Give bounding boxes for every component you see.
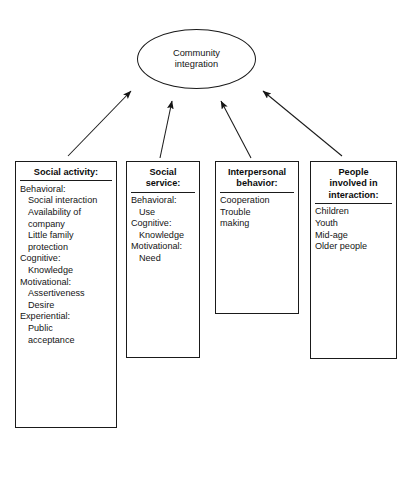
list-item: Public (20, 323, 112, 335)
list-item: Desire (20, 300, 112, 312)
list-item: protection (20, 242, 112, 254)
title-divider (315, 203, 392, 204)
box-title-line: Social (132, 167, 194, 178)
box-title-social-service: Social service: (131, 167, 195, 192)
list-item: Motivational: (131, 241, 195, 253)
central-node-line-2: integration (175, 59, 218, 70)
diagram-canvas: Community integration Social activity: B… (0, 0, 409, 501)
arrow-group (68, 91, 342, 158)
list-item: Use (131, 207, 195, 219)
list-item: Behavioral: (20, 184, 112, 196)
factor-box-interpersonal-behavior: Interpersonal behavior: Cooperation Trou… (215, 161, 299, 314)
factor-box-social-service: Social service: Behavioral: Use Cognitiv… (126, 161, 200, 358)
list-item: Social interaction (20, 195, 112, 207)
central-node-line-1: Community (173, 48, 220, 59)
list-item: Cognitive: (20, 253, 112, 265)
list-item: Little family (20, 230, 112, 242)
list-item: Assertiveness (20, 288, 112, 300)
list-item: Experiential: (20, 311, 112, 323)
box-body-social-service: Behavioral: Use Cognitive: Knowledge Mot… (131, 194, 195, 265)
arrow-social-activity-to-center (68, 91, 131, 156)
list-item: Mid-age (315, 230, 392, 242)
list-item: Children (315, 206, 392, 218)
arrow-social-service-to-center (160, 101, 172, 158)
box-title-line: behavior: (221, 178, 293, 189)
box-title-interpersonal-behavior: Interpersonal behavior: (220, 167, 294, 192)
list-item: Behavioral: (131, 195, 195, 207)
factor-box-social-activity: Social activity: Behavioral: Social inte… (15, 161, 117, 428)
box-title-line: Interpersonal (221, 167, 293, 178)
title-divider (20, 180, 112, 181)
box-title-social-activity: Social activity: (20, 167, 112, 180)
box-title-line: involved in (316, 178, 391, 189)
arrow-people-involved-to-center (263, 91, 342, 156)
central-node-community-integration: Community integration (137, 29, 256, 89)
list-item: Motivational: (20, 277, 112, 289)
list-item: acceptance (20, 335, 112, 347)
box-title-line: Social activity: (21, 167, 111, 178)
box-title-line: People (316, 167, 391, 178)
factor-box-people-involved: People involved in interaction: Children… (310, 161, 397, 359)
title-divider (220, 192, 294, 193)
box-body-interpersonal-behavior: Cooperation Trouble making (220, 194, 294, 230)
box-body-people-involved: Children Youth Mid-age Older people (315, 205, 392, 252)
box-title-line: service: (132, 178, 194, 189)
box-title-people-involved: People involved in interaction: (315, 167, 392, 203)
title-divider (131, 192, 195, 193)
list-item: Need (131, 253, 195, 265)
list-item: company (20, 219, 112, 231)
list-item: making (220, 218, 294, 230)
list-item: Availability of (20, 207, 112, 219)
list-item: Youth (315, 218, 392, 230)
list-item: Trouble (220, 207, 294, 219)
box-title-line: interaction: (316, 190, 391, 201)
list-item: Cognitive: (131, 218, 195, 230)
list-item: Older people (315, 241, 392, 253)
list-item: Knowledge (131, 230, 195, 242)
list-item: Knowledge (20, 265, 112, 277)
list-item: Cooperation (220, 195, 294, 207)
arrow-interpersonal-behavior-to-center (221, 101, 251, 158)
box-body-social-activity: Behavioral: Social interaction Availabil… (20, 183, 112, 346)
